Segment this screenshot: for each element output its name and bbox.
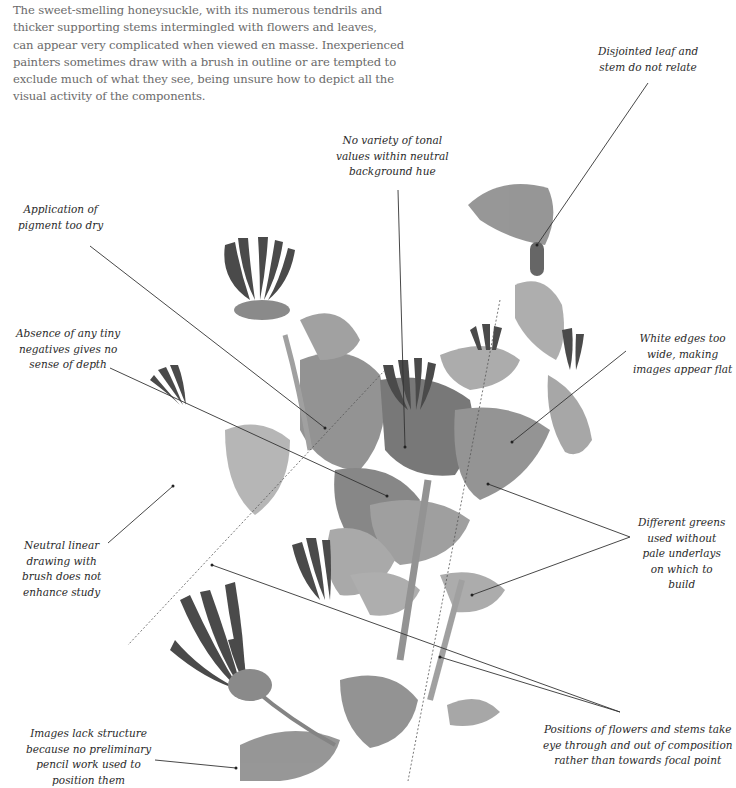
annotation-tiny-negatives: Absence of any tiny negatives gives no s… bbox=[16, 326, 120, 373]
annotation-tonal-values: No variety of tonal values within neutra… bbox=[336, 133, 449, 180]
annotation-disjointed-leaf: Disjointed leaf and stem do not relate bbox=[598, 44, 698, 75]
annotation-lack-structure: Images lack structure because no prelimi… bbox=[26, 726, 151, 788]
annotation-neutral-linear: Neutral linear drawing with brush does n… bbox=[22, 538, 101, 600]
annotation-pigment-dry: Application of pigment too dry bbox=[18, 202, 103, 233]
annotation-different-greens: Different greens used without pale under… bbox=[638, 515, 725, 593]
annotation-positions-flowers: Positions of flowers and stems take eye … bbox=[543, 722, 732, 769]
annotation-white-edges: White edges too wide, making images appe… bbox=[633, 331, 732, 378]
